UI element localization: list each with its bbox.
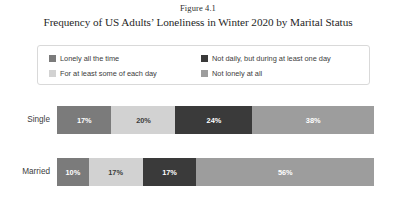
chart-row-married: Married 10%17%17%56%: [0, 158, 396, 186]
bar-segment-value-label: 17%: [162, 168, 177, 177]
bar-segment-value-label: 20%: [136, 116, 151, 125]
bar-segment: 20%: [111, 106, 175, 134]
legend-item-not-daily-but-during-at-least-one-day: Not daily, but during at least one day: [201, 55, 369, 62]
bar-segment-value-label: 24%: [207, 116, 222, 125]
legend-item-not-lonely-at-all: Not lonely at all: [201, 70, 369, 77]
legend-swatch-icon: [49, 70, 56, 77]
legend-item-label: Not daily, but during at least one day: [212, 55, 331, 62]
legend-swatch-icon: [49, 55, 56, 62]
legend: Lonely all the time Not daily, but durin…: [37, 45, 370, 85]
bar-segment: 24%: [175, 106, 252, 134]
bar-segment: 56%: [196, 158, 374, 186]
legend-item-lonely-all-the-time: Lonely all the time: [49, 55, 201, 62]
bar-segment: 17%: [57, 106, 111, 134]
bar-segment-value-label: 56%: [278, 168, 293, 177]
legend-swatch-icon: [201, 55, 208, 62]
legend-item-for-at-least-some-of-each-day: For at least some of each day: [49, 70, 201, 77]
figure-number: Figure 4.1: [0, 3, 396, 13]
bar-segment: 10%: [57, 158, 89, 186]
category-label-single: Single: [0, 106, 50, 134]
bar-segment-value-label: 17%: [77, 116, 92, 125]
legend-swatch-icon: [201, 70, 208, 77]
bar-segment: 17%: [143, 158, 197, 186]
figure-container: Figure 4.1 Frequency of US Adults’ Lonel…: [0, 0, 396, 197]
chart-plot-area: Single 17%20%24%38% Married 10%17%17%56%: [0, 95, 396, 197]
stacked-bar-married: 10%17%17%56%: [57, 158, 374, 186]
legend-items: Lonely all the time Not daily, but durin…: [49, 51, 369, 81]
stacked-bar-single: 17%20%24%38%: [57, 106, 374, 134]
legend-item-label: Lonely all the time: [60, 55, 119, 62]
figure-title: Frequency of US Adults’ Loneliness in Wi…: [0, 16, 396, 28]
bar-segment: 17%: [89, 158, 143, 186]
category-label-married: Married: [0, 158, 50, 186]
bar-segment-value-label: 38%: [306, 116, 321, 125]
chart-row-single: Single 17%20%24%38%: [0, 106, 396, 134]
bar-segment-value-label: 10%: [66, 168, 81, 177]
legend-item-label: Not lonely at all: [212, 70, 262, 77]
bar-segment-value-label: 17%: [108, 168, 123, 177]
bar-segment: 38%: [252, 106, 374, 134]
legend-item-label: For at least some of each day: [60, 70, 157, 77]
